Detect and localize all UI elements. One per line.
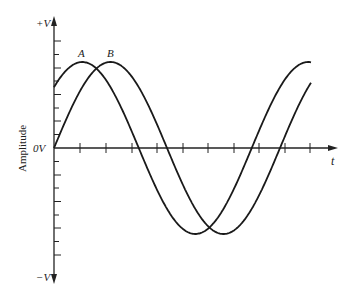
phase-shift-chart: +V 0V −V t A B Amplitude: [0, 0, 351, 295]
x-axis-label: t: [331, 154, 335, 168]
y-axis-top-arrow-icon: [51, 16, 57, 26]
y-top-label: +V: [36, 17, 51, 29]
y-zero-label: 0V: [33, 142, 47, 154]
curve-a-label: A: [77, 47, 85, 59]
x-axis-arrow-icon: [328, 145, 338, 151]
y-axis-title: Amplitude: [16, 125, 28, 172]
y-axis-bottom-arrow-icon: [51, 274, 57, 284]
y-bottom-label: −V: [36, 271, 51, 283]
curve-b-label: B: [107, 47, 114, 59]
